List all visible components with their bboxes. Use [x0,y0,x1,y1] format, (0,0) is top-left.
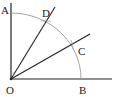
diagram-canvas: A D C O B [0,0,113,97]
label-a: A [1,5,9,16]
label-c: C [78,46,85,57]
label-b: B [79,85,86,96]
label-o: O [6,85,14,96]
label-d: D [42,8,50,19]
arc-ab [11,13,81,79]
geometry-figure [0,0,113,97]
point-o [10,78,13,81]
